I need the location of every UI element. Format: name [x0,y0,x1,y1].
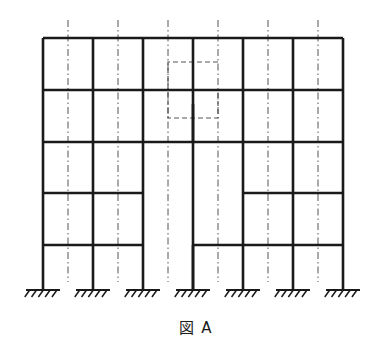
figure-caption: 図 A [0,316,392,337]
support-4 [175,290,210,297]
support-2 [75,290,110,297]
columns-group [43,38,343,290]
support-5 [225,290,260,297]
support-1 [25,290,60,297]
support-7 [325,290,360,297]
structural-frame-diagram [0,0,392,353]
support-3 [125,290,160,297]
supports-group [25,290,360,297]
support-6 [275,290,310,297]
figure-root: 図 A [0,0,392,353]
